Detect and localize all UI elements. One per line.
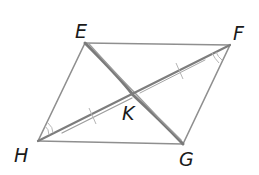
vertex-label-G: G	[179, 148, 194, 170]
vertex-label-H: H	[14, 144, 28, 166]
intersection-label-K: K	[122, 102, 136, 124]
angle-arc-F-1	[216, 52, 222, 60]
parallelogram-diagram: E F G H K	[0, 0, 259, 175]
side-EF	[85, 43, 230, 45]
vertex-label-F: F	[233, 22, 245, 44]
diagonal-HF	[38, 45, 230, 141]
side-FG	[183, 45, 230, 144]
vertex-label-E: E	[75, 20, 87, 42]
angle-arc-H-1	[45, 126, 49, 135]
angle-arc-F-2	[212, 53, 219, 63]
side-GH	[38, 141, 183, 144]
